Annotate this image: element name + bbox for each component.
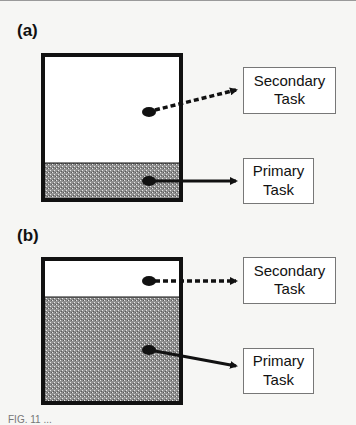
secondary-task-label: Secondary — [254, 72, 326, 89]
secondary-task-box-b: Secondary Task — [244, 258, 336, 304]
primary-task-box-b: Primary Task — [244, 349, 314, 394]
panel-b-label: (b) — [17, 226, 39, 245]
secondary-task-label-2: Task — [274, 280, 305, 297]
secondary-task-label-2: Task — [274, 90, 305, 107]
secondary-dot-icon — [142, 276, 156, 286]
primary-task-label: Primary — [253, 352, 305, 369]
primary-task-label-2: Task — [263, 371, 294, 388]
primary-dot-icon — [142, 176, 156, 186]
secondary-dot-icon — [142, 107, 156, 117]
primary-task-label: Primary — [253, 162, 305, 179]
primary-task-box-a: Primary Task — [244, 159, 314, 204]
resource-container-a — [43, 55, 181, 200]
panel-a: (a) Secondary Task Primary Task — [17, 21, 336, 204]
secondary-task-label: Secondary — [254, 262, 326, 279]
primary-task-label-2: Task — [263, 181, 294, 198]
panel-a-label: (a) — [17, 21, 38, 40]
secondary-task-box-a: Secondary Task — [244, 68, 336, 114]
figure-caption: FIG. 11 ... — [8, 414, 52, 425]
primary-dot-icon — [142, 345, 156, 355]
resource-container-b — [43, 259, 181, 403]
primary-allocation-fill-b — [43, 297, 181, 403]
panel-b: (b) Secondary Task Primary Task — [17, 226, 336, 403]
